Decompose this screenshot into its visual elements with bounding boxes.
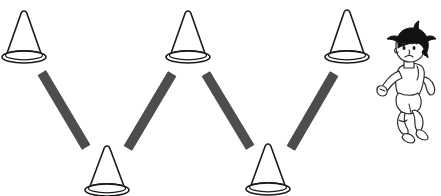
bar-group	[38, 71, 338, 151]
boy-front-leg	[398, 112, 408, 136]
bar-1	[38, 71, 90, 150]
bar-4-shape	[287, 72, 338, 151]
boy-nose	[409, 50, 410, 54]
boy-front-shoe	[402, 134, 415, 143]
cone-top-right	[325, 10, 369, 63]
bar-1-shape	[38, 71, 90, 150]
bar-2-shape	[124, 72, 176, 151]
boy-eye-left	[403, 46, 406, 50]
cone-bottom-left	[85, 146, 129, 196]
boy-back-shoe	[416, 130, 428, 140]
bar-3-shape	[202, 72, 254, 150]
cone-bottom-right	[246, 144, 290, 195]
running-boy	[377, 21, 436, 143]
boy-hair-spike-top	[414, 21, 419, 30]
cone-top-middle	[166, 11, 210, 63]
drill-diagram-scene	[0, 0, 441, 196]
cone-top-left	[2, 11, 46, 63]
boy-hair-spike-left	[387, 36, 399, 42]
bar-3	[202, 72, 254, 150]
bar-2	[124, 72, 176, 151]
boy-fist	[377, 86, 387, 96]
diagram-canvas	[0, 0, 441, 196]
boy-hair-spike-right	[426, 36, 436, 42]
bar-4	[287, 72, 338, 151]
boy-eye-right	[413, 46, 416, 50]
